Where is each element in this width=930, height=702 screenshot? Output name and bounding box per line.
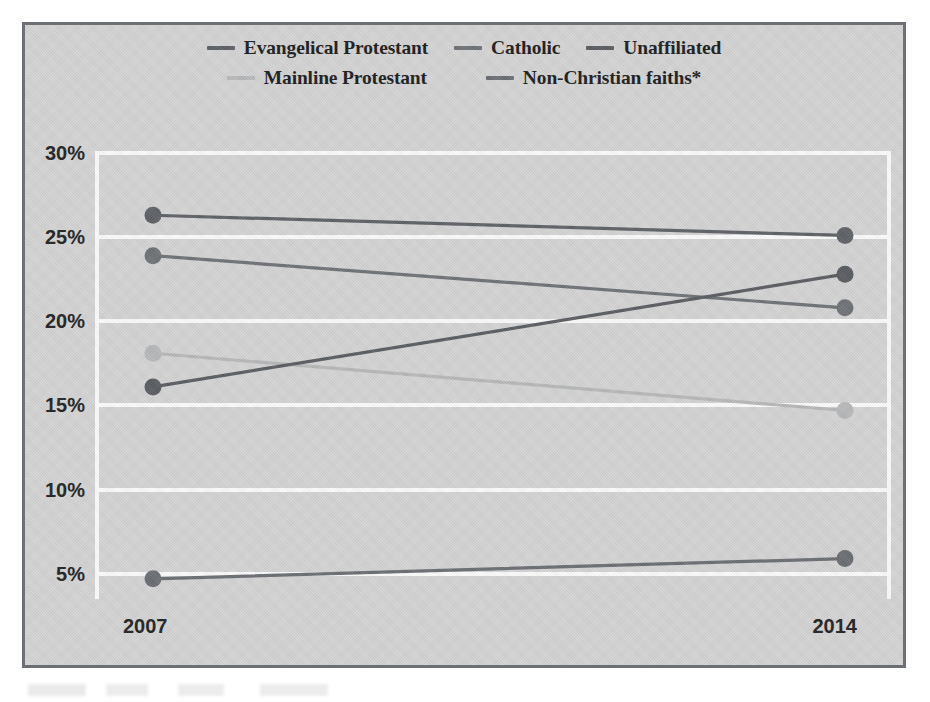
series-line-evangelical-protestant xyxy=(153,215,845,235)
legend-row-2: Mainline Protestant Non-Christian faiths… xyxy=(25,63,903,93)
series-line-mainline-protestant xyxy=(153,353,845,410)
legend-item-non-christian-faiths[interactable]: Non-Christian faiths* xyxy=(486,67,701,89)
legend-label-mainline-protestant: Mainline Protestant xyxy=(264,67,427,89)
legend-label-evangelical-protestant: Evangelical Protestant xyxy=(244,37,428,59)
y-axis-tick-labels: 30%25%20%15%10%5% xyxy=(25,153,85,599)
series-line-unaffiliated xyxy=(153,274,845,387)
page-scan-artifact xyxy=(28,684,328,696)
x-axis-tick-2014: 2014 xyxy=(813,615,858,638)
legend-swatch-unaffiliated xyxy=(586,46,614,50)
y-axis-tick-25pct: 25% xyxy=(45,226,85,249)
datapoint-catholic-2014[interactable]: Catholic 2014: 20.8% xyxy=(837,299,854,316)
legend-label-unaffiliated: Unaffiliated xyxy=(623,37,721,59)
datapoint-evangelical-protestant-2014[interactable]: Evangelical Protestant 2014: 25.1% xyxy=(837,227,854,244)
y-axis-tick-30pct: 30% xyxy=(45,142,85,165)
x-axis-tick-labels: 2007 2014 xyxy=(25,615,903,655)
datapoint-mainline-protestant-2007[interactable]: Mainline Protestant 2007: 18.1% xyxy=(145,345,162,362)
y-axis-tick-15pct: 15% xyxy=(45,394,85,417)
legend-swatch-catholic xyxy=(454,46,482,50)
y-axis-tick-5pct: 5% xyxy=(56,562,85,585)
chart-figure-frame: Evangelical Protestant Catholic Unaffili… xyxy=(22,22,906,668)
legend-swatch-mainline-protestant xyxy=(227,76,255,80)
chart-plot-area: Evangelical Protestant 2007: 26.3%Evange… xyxy=(95,153,891,599)
datapoint-non-christian-faiths-2014[interactable]: Non-Christian faiths* 2014: 5.9% xyxy=(837,550,854,567)
series-line-catholic xyxy=(153,256,845,308)
datapoint-unaffiliated-2007[interactable]: Unaffiliated 2007: 16.1% xyxy=(145,378,162,395)
legend-item-catholic[interactable]: Catholic xyxy=(454,37,560,59)
legend-item-mainline-protestant[interactable]: Mainline Protestant xyxy=(227,67,427,89)
legend-label-catholic: Catholic xyxy=(491,37,560,59)
chart-legend: Evangelical Protestant Catholic Unaffili… xyxy=(25,33,903,93)
series-line-non-christian-faiths xyxy=(153,559,845,579)
datapoint-unaffiliated-2014[interactable]: Unaffiliated 2014: 22.8% xyxy=(837,266,854,283)
legend-swatch-non-christian-faiths xyxy=(486,76,514,80)
legend-item-unaffiliated[interactable]: Unaffiliated xyxy=(586,37,721,59)
legend-swatch-evangelical-protestant xyxy=(207,46,235,50)
datapoint-mainline-protestant-2014[interactable]: Mainline Protestant 2014: 14.7% xyxy=(837,402,854,419)
y-axis-tick-20pct: 20% xyxy=(45,310,85,333)
y-axis-tick-10pct: 10% xyxy=(45,478,85,501)
legend-row-1: Evangelical Protestant Catholic Unaffili… xyxy=(25,33,903,63)
x-axis-tick-2007: 2007 xyxy=(123,615,168,638)
legend-label-non-christian-faiths: Non-Christian faiths* xyxy=(523,67,701,89)
datapoint-evangelical-protestant-2007[interactable]: Evangelical Protestant 2007: 26.3% xyxy=(145,207,162,224)
chart-series-layer: Evangelical Protestant 2007: 26.3%Evange… xyxy=(95,153,891,599)
legend-item-evangelical-protestant[interactable]: Evangelical Protestant xyxy=(207,37,428,59)
datapoint-catholic-2007[interactable]: Catholic 2007: 23.9% xyxy=(145,247,162,264)
datapoint-non-christian-faiths-2007[interactable]: Non-Christian faiths* 2007: 4.7% xyxy=(145,570,162,587)
